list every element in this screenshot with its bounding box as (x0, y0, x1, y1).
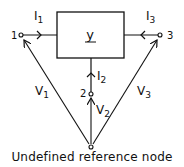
caption: Undefined reference node (0, 150, 184, 164)
v2-label: V2 (96, 103, 110, 119)
node-2-label: 2 (80, 88, 86, 99)
reference-node (89, 145, 93, 149)
i3-label: I3 (146, 9, 155, 25)
block-label: y (86, 27, 94, 42)
three-terminal-network-diagram: y 1 I1 3 I3 2 I2 V1 V2 V3 (0, 0, 184, 167)
node-2 (89, 92, 93, 96)
i2-label: I2 (97, 69, 106, 85)
v1-label: V1 (35, 84, 49, 100)
node-3 (158, 33, 162, 37)
node-1-label: 1 (11, 30, 17, 41)
node-3-label: 3 (167, 30, 173, 41)
node-1 (19, 33, 23, 37)
i1-label: I1 (34, 9, 43, 25)
v3-label: V3 (137, 84, 151, 100)
